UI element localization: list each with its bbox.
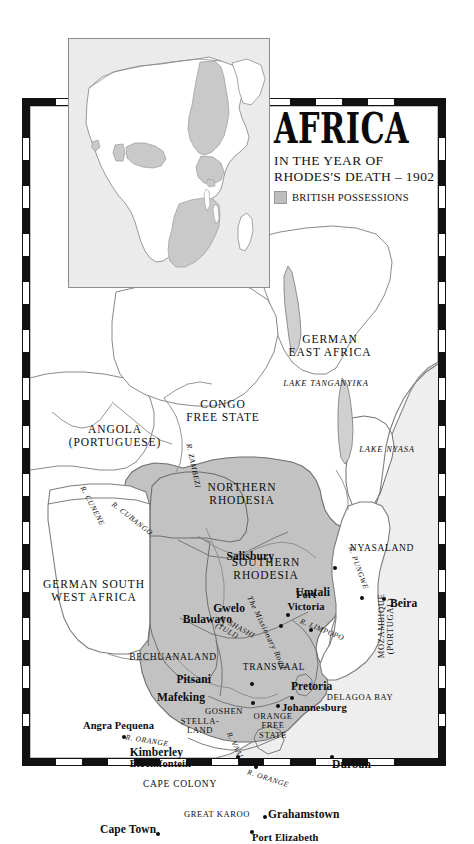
legend-swatch-british-possessions <box>274 191 287 204</box>
city-dot-salisbury <box>333 566 337 570</box>
city-dot-port-elizabeth <box>250 830 254 834</box>
frame-dash-bottom <box>212 759 238 765</box>
frame-dash-right <box>439 282 445 304</box>
frame-dash-right <box>439 186 445 208</box>
frame-dash-right <box>439 330 445 352</box>
frame-dash-right <box>439 378 445 400</box>
city-dot-bulawayo <box>279 624 283 628</box>
city-label-grahamstown: Grahamstown <box>268 808 339 821</box>
page-title: AFRICA <box>274 108 421 148</box>
legend-label-british-possessions: BRITISH POSSESSIONS <box>292 192 409 203</box>
frame-dash-right <box>439 666 445 688</box>
city-dot-grahamstown <box>263 815 267 819</box>
frame-dash-bottom <box>108 759 134 765</box>
frame-dash-left <box>23 378 29 400</box>
british-possessions-northern-rhodesia-lobe <box>148 472 248 542</box>
frame-dash-bottom <box>368 759 394 765</box>
title-subtitle-line2: RHODES'S DEATH – 1902 <box>274 169 434 185</box>
city-dot-fort-victoria <box>309 628 313 632</box>
frame-dash-bottom <box>316 759 342 765</box>
city-dot-bloemfontein <box>254 765 258 769</box>
city-dot-kimberley <box>236 755 240 759</box>
frame-dash-left <box>23 330 29 352</box>
city-label-cape-town: Cape Town <box>100 823 156 836</box>
frame-dash-left <box>23 618 29 640</box>
africa-inset-map <box>68 38 270 288</box>
frame-dash-right <box>439 522 445 544</box>
frame-dash-left <box>23 570 29 592</box>
frame-dash-right <box>439 138 445 160</box>
country-label-great-karoo: GREAT KAROO <box>184 810 250 819</box>
frame-dash-right <box>439 570 445 592</box>
frame-dash-bottom <box>160 759 186 765</box>
frame-dash-left <box>23 426 29 448</box>
city-dot-mafeking <box>251 701 255 705</box>
city-dot-cape-town <box>156 832 160 836</box>
inset-svg <box>69 39 269 287</box>
frame-dash-bottom <box>56 759 82 765</box>
frame-dash-left <box>23 666 29 688</box>
city-label-port-elizabeth: Port Elizabeth <box>252 832 318 844</box>
frame-dash-right <box>439 714 445 726</box>
city-dot-beira <box>382 597 386 601</box>
city-dot-pretoria <box>290 696 294 700</box>
city-dot-angra-pequena <box>122 735 126 739</box>
city-dot-gwelo <box>286 613 290 617</box>
map-title-block: AFRICA IN THE YEAR OF RHODES'S DEATH – 1… <box>274 108 434 204</box>
frame-dash-right <box>439 474 445 496</box>
city-dot-pitsani <box>250 682 254 686</box>
frame-dash-left <box>23 714 29 726</box>
frame-dash-right <box>439 618 445 640</box>
city-dot-durban <box>330 755 334 759</box>
frame-dash-left <box>23 522 29 544</box>
country-label-cape-colony: CAPE COLONY <box>143 779 217 789</box>
title-subtitle-line1: IN THE YEAR OF <box>274 153 434 169</box>
frame-dash-left <box>23 186 29 208</box>
frame-dash-left <box>23 474 29 496</box>
frame-dash-left <box>23 234 29 256</box>
frame-dash-left <box>23 282 29 304</box>
city-dot-umtali <box>360 596 364 600</box>
inset-gold-coast-highlight <box>113 144 125 161</box>
frame-dash-bottom <box>264 759 290 765</box>
frame-dash-right <box>439 234 445 256</box>
map-legend: BRITISH POSSESSIONS <box>274 191 434 204</box>
city-dot-johannesburg <box>276 704 280 708</box>
frame-dash-right <box>439 426 445 448</box>
frame-dash-left <box>23 138 29 160</box>
river-label-river-orange-east: R. ORANGE <box>246 768 290 789</box>
